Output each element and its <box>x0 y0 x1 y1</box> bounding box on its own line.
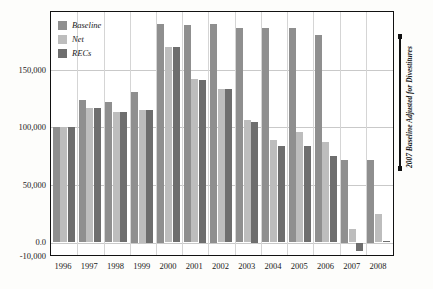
bar-net-2005 <box>296 132 303 243</box>
bar-baseline-2001 <box>184 25 191 243</box>
y-tick-label: 50,000 <box>23 180 46 190</box>
bar-net-2008 <box>375 214 382 243</box>
legend-item-recs: RECs <box>58 47 101 59</box>
bar-recs-2006 <box>330 156 337 242</box>
bar-recs-2008 <box>383 241 390 243</box>
bar-net-1996 <box>60 127 67 242</box>
y-tick-label: 100,000 <box>18 122 46 132</box>
bar-recs-2007 <box>356 243 363 251</box>
annotation-endpoint-icon <box>398 34 403 39</box>
bar-net-2001 <box>191 79 198 243</box>
bar-baseline-2006 <box>315 35 322 242</box>
bar-net-2007 <box>349 229 356 243</box>
bar-baseline-2004 <box>262 28 269 242</box>
bar-recs-2000 <box>173 47 180 243</box>
bar-baseline-1996 <box>53 127 60 242</box>
bar-net-2002 <box>218 89 225 242</box>
bar-net-2000 <box>165 47 172 243</box>
plot-area <box>50 11 394 256</box>
bar-recs-1999 <box>146 110 153 243</box>
annotation-endpoint-icon <box>398 166 403 171</box>
bar-net-2004 <box>270 140 277 243</box>
x-tick-label: 2008 <box>358 261 398 271</box>
legend-item-net: Net <box>58 33 101 45</box>
bar-recs-2002 <box>225 89 232 242</box>
legend-label: RECs <box>72 48 91 58</box>
bar-net-2006 <box>322 142 329 242</box>
legend-swatch-icon <box>58 21 67 30</box>
bar-net-1998 <box>113 112 120 242</box>
annotation-label: 2007 Baseline Adjusted for Divestitures <box>405 18 414 168</box>
bar-baseline-1997 <box>79 100 86 243</box>
legend-swatch-icon <box>58 35 67 44</box>
bar-recs-1996 <box>68 127 75 242</box>
bar-baseline-1998 <box>105 102 112 243</box>
bar-baseline-2003 <box>236 28 243 242</box>
bar-baseline-2005 <box>289 28 296 242</box>
legend-item-baseline: Baseline <box>58 19 101 31</box>
annotation-bracket <box>399 36 401 168</box>
bar-baseline-2007 <box>341 160 348 243</box>
gridline-horizontal <box>51 70 393 71</box>
bar-recs-2004 <box>278 146 285 243</box>
y-tick-label: 150,000 <box>18 65 46 75</box>
bar-recs-2005 <box>304 146 311 243</box>
bar-recs-1997 <box>94 108 101 243</box>
y-tick-label: 0.0 <box>35 237 46 247</box>
legend-label: Net <box>72 34 84 44</box>
bar-baseline-2008 <box>367 160 374 243</box>
bar-net-1997 <box>86 108 93 243</box>
bar-baseline-1999 <box>131 92 138 243</box>
bar-recs-1998 <box>120 112 127 242</box>
gridline-horizontal <box>51 243 393 244</box>
y-axis: 150,000 100,000 50,000 0.0 -10,000 <box>0 0 46 289</box>
plot-inner <box>51 12 393 255</box>
bar-baseline-2000 <box>157 24 164 243</box>
chart-legend: Baseline Net RECs <box>58 19 101 61</box>
bar-baseline-2002 <box>210 24 217 243</box>
y-tick-label: -10,000 <box>20 251 46 261</box>
chart-container: 150,000 100,000 50,000 0.0 -10,000 19961… <box>0 0 433 289</box>
legend-label: Baseline <box>72 20 101 30</box>
bar-recs-2003 <box>251 122 258 243</box>
bar-net-2003 <box>244 120 251 242</box>
bar-recs-2001 <box>199 80 206 243</box>
bar-net-1999 <box>139 110 146 243</box>
legend-swatch-icon <box>58 49 67 58</box>
